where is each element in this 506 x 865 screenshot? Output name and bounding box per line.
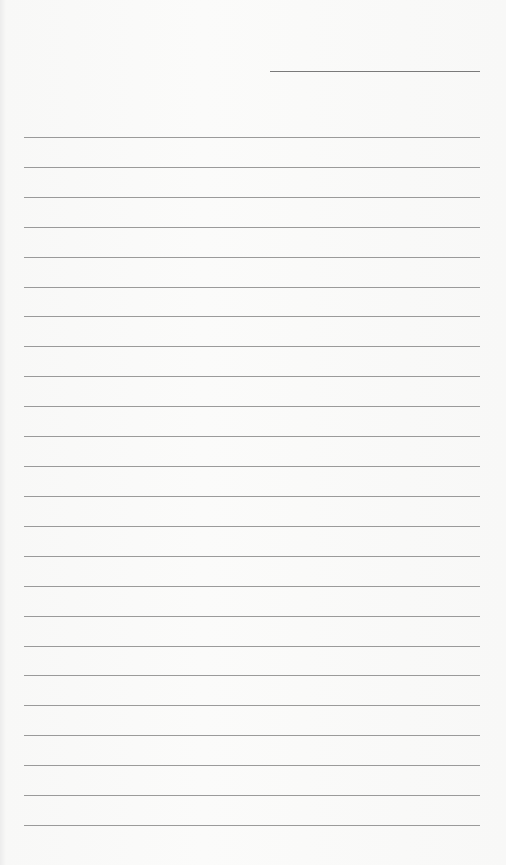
ruled-line: [24, 436, 480, 437]
ruled-line: [24, 646, 480, 647]
lined-paper-sheet: [0, 0, 506, 865]
ruled-line: [24, 496, 480, 497]
ruled-line: [24, 137, 480, 138]
ruled-line: [24, 765, 480, 766]
ruled-line: [24, 526, 480, 527]
ruled-line: [24, 287, 480, 288]
ruled-line: [24, 556, 480, 557]
ruled-line: [24, 466, 480, 467]
ruled-line: [24, 316, 480, 317]
ruled-line: [24, 346, 480, 347]
ruled-line: [24, 616, 480, 617]
ruled-line: [24, 376, 480, 377]
ruled-line: [24, 825, 480, 826]
ruled-line: [24, 167, 480, 168]
ruled-line: [24, 675, 480, 676]
header-name-line: [270, 71, 480, 72]
ruled-line: [24, 735, 480, 736]
ruled-line: [24, 257, 480, 258]
ruled-line: [24, 586, 480, 587]
ruled-line: [24, 227, 480, 228]
ruled-line: [24, 406, 480, 407]
ruled-line: [24, 705, 480, 706]
ruled-line: [24, 795, 480, 796]
ruled-line: [24, 197, 480, 198]
